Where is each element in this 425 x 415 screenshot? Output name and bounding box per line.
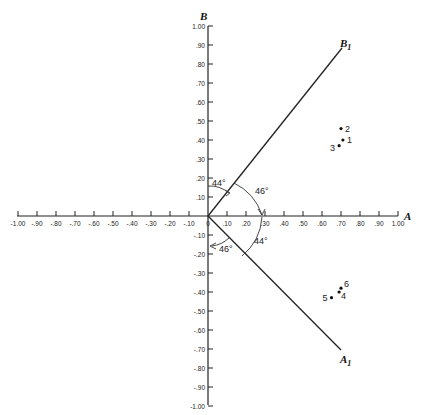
y-tick-label: -1.00 xyxy=(190,403,205,410)
point-label-3: 3 xyxy=(330,143,335,153)
x-tick-label: .40 xyxy=(279,220,288,227)
x-tick-label: .50 xyxy=(298,220,307,227)
point-label-2: 2 xyxy=(345,124,350,134)
y-tick-label: -.40 xyxy=(194,289,206,296)
y-tick-label: -.10 xyxy=(194,232,206,239)
x-tick-label: .70 xyxy=(336,220,345,227)
y-tick-label: -.60 xyxy=(194,327,206,334)
y-tick-label: .50 xyxy=(196,118,205,125)
arrowhead-right xyxy=(258,209,265,215)
a1-axis-label: A1 xyxy=(339,353,351,368)
data-point-5 xyxy=(330,296,333,299)
y-tick-label: .60 xyxy=(196,99,205,106)
y-tick-label: -.70 xyxy=(194,346,206,353)
angle-label-44-bottom: 44° xyxy=(254,236,268,246)
x-tick-label: .80 xyxy=(355,220,364,227)
x-tick-label: .20 xyxy=(241,220,250,227)
x-tick-label: -.70 xyxy=(69,220,81,227)
point-label-5: 5 xyxy=(323,293,328,303)
y-tick-label: -.30 xyxy=(194,270,206,277)
data-points: 123456 xyxy=(323,124,352,303)
y-tick-label: -.50 xyxy=(194,308,206,315)
x-axis-label: A xyxy=(403,210,411,222)
point-label-4: 4 xyxy=(341,291,346,301)
x-tick-label: -.40 xyxy=(126,220,138,227)
y-tick-label: .10 xyxy=(196,194,205,201)
x-tick-label: -.20 xyxy=(164,220,176,227)
y-tick-label: -.90 xyxy=(194,384,206,391)
b1-axis-line xyxy=(208,48,342,216)
data-point-2 xyxy=(339,127,342,130)
angle-label-46-bottom: 46° xyxy=(219,244,233,254)
x-tick-label: .10 xyxy=(222,220,231,227)
data-point-3 xyxy=(338,144,341,147)
x-tick-label: -.60 xyxy=(88,220,100,227)
x-tick-label: -1.00 xyxy=(11,220,26,227)
y-tick-label: .70 xyxy=(196,80,205,87)
y-axis-label: B xyxy=(199,10,207,22)
y-tick-label: .80 xyxy=(196,61,205,68)
x-tick-label: -.30 xyxy=(145,220,157,227)
angle-label-44-top: 44° xyxy=(212,178,226,188)
angle-label-46-right: 46° xyxy=(255,186,269,196)
y-tick-label: .40 xyxy=(196,137,205,144)
x-tick-label: -.50 xyxy=(107,220,119,227)
y-tick-label: .20 xyxy=(196,175,205,182)
x-tick-label: -.80 xyxy=(50,220,62,227)
y-tick-label: 1.00 xyxy=(192,23,205,30)
x-tick-label: -.10 xyxy=(183,220,195,227)
y-tick-label: .30 xyxy=(196,156,205,163)
x-tick-label: .60 xyxy=(317,220,326,227)
y-tick-label: .90 xyxy=(196,42,205,49)
x-tick-label: 1.00 xyxy=(392,220,405,227)
point-label-1: 1 xyxy=(347,135,352,145)
x-tick-label: .90 xyxy=(374,220,383,227)
data-point-6 xyxy=(339,287,342,290)
point-label-6: 6 xyxy=(344,279,349,289)
data-point-1 xyxy=(341,138,344,141)
y-tick-label: -.80 xyxy=(194,365,206,372)
y-tick-label: -.20 xyxy=(194,251,206,258)
rotated-axes xyxy=(208,48,342,350)
x-tick-label: 0 xyxy=(206,220,210,227)
a1-axis-line xyxy=(208,216,341,350)
factor-rotation-chart: -1.00-.90-.80-.70-.60-.50-.40-.30-.20-.1… xyxy=(0,0,425,415)
x-tick-label: -.90 xyxy=(31,220,43,227)
